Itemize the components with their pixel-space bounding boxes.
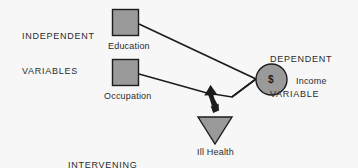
group-label-intervening-line1: INTERVENING: [68, 160, 138, 168]
group-label-dependent-line1: DEPENDENT: [270, 54, 332, 66]
group-label-independent-line1: INDEPENDENT: [22, 31, 95, 43]
node-occupation-shape: [113, 60, 139, 86]
group-label-independent-line2: VARIABLES: [22, 66, 95, 78]
path-diagram: INDEPENDENT VARIABLES DEPENDENT VARIABLE…: [0, 0, 358, 168]
group-label-dependent-line2: VARIABLE: [270, 89, 332, 101]
link-occupation-to-income: [139, 74, 256, 97]
node-label-occupation: Occupation: [104, 91, 152, 103]
node-label-income: Income: [296, 76, 327, 88]
dollar-icon: $: [268, 74, 274, 85]
node-label-ill-health: Ill Health: [197, 147, 234, 159]
link-education-to-income: [139, 24, 256, 97]
group-label-intervening: INTERVENING VARIABLE: [68, 137, 138, 168]
node-ill-health-shape: [198, 117, 232, 144]
node-education-shape: [113, 10, 139, 36]
group-label-independent: INDEPENDENT VARIABLES: [22, 8, 95, 100]
node-label-education: Education: [108, 41, 150, 53]
arrow-ill-health-up: [204, 85, 219, 113]
